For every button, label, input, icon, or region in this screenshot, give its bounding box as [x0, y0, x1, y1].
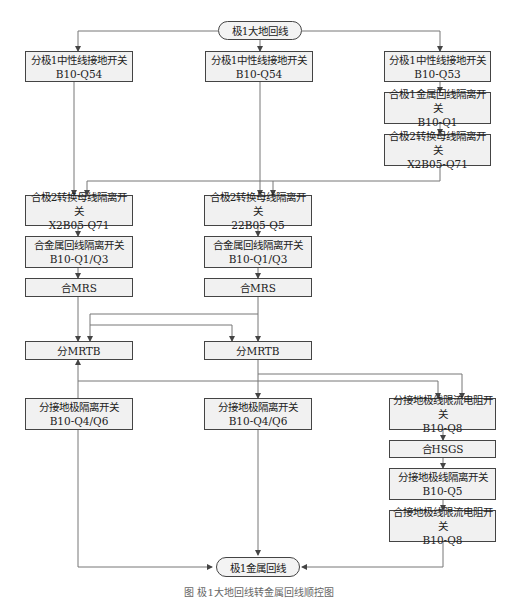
left-step-6: 分接地极隔离开关B10-Q4/Q6 — [25, 398, 133, 430]
step-label: 合极1金属回线隔离开关 — [385, 87, 490, 115]
right-bottom-step-3: 分接地极线隔离开关B10-Q5 — [389, 468, 496, 500]
step-label: 分接地极隔离开关 — [39, 400, 119, 414]
step-label: 合金属回线隔离开关 — [213, 238, 303, 252]
step-label: 合HSGS — [422, 442, 464, 456]
step-label: 分极1中性线接地开关 — [211, 53, 308, 67]
step-code: B10-Q4/Q6 — [229, 414, 288, 428]
step-code: B10-Q8 — [423, 533, 463, 547]
left-step-5: 分MRTB — [25, 341, 133, 360]
step-label: 合金属回线隔离开关 — [34, 238, 124, 252]
step-code: B10-Q4/Q6 — [50, 414, 109, 428]
right-top-step-3: 合极2转换母线隔离开关X2B05-Q71 — [384, 134, 491, 166]
middle-step-1: 分极1中性线接地开关B10-Q54 — [205, 51, 313, 82]
step-code: B10-Q54 — [56, 67, 103, 81]
right-bottom-step-2: 合HSGS — [389, 440, 496, 458]
right-top-step-2: 合极1金属回线隔离开关B10-Q1 — [384, 92, 491, 124]
step-label: 合极2转换母线隔离开关 — [205, 190, 311, 218]
right-top-step-1: 分极1中性线接地开关B10-Q53 — [384, 51, 491, 82]
middle-step-6: 分接地极隔离开关B10-Q4/Q6 — [204, 398, 312, 430]
step-code: 22B05-Q5 — [231, 218, 284, 232]
step-code: B10-Q54 — [236, 67, 283, 81]
step-label: 分MRTB — [57, 344, 100, 358]
step-label: 合接地极线限流电阻开关 — [390, 505, 495, 533]
left-step-1: 分极1中性线接地开关B10-Q54 — [25, 51, 133, 82]
step-label: 合MRS — [240, 281, 276, 295]
right-bottom-step-4: 合接地极线限流电阻开关B10-Q8 — [389, 510, 496, 542]
left-step-4: 合MRS — [25, 278, 133, 297]
step-code: X2B05-Q71 — [407, 157, 468, 171]
end-label: 极1金属回线 — [230, 560, 287, 575]
right-bottom-step-1: 分接地极线限流电阻开关B10-Q8 — [389, 398, 496, 430]
left-step-3: 合金属回线隔离开关B10-Q1/Q3 — [25, 236, 133, 268]
step-code: B10-Q53 — [414, 67, 461, 81]
start-label: 极1大地回线 — [232, 23, 289, 38]
middle-step-4: 合MRS — [204, 278, 312, 297]
step-label: 分极1中性线接地开关 — [389, 53, 486, 67]
step-code: B10-Q8 — [423, 421, 463, 435]
step-label: 分接地极隔离开关 — [218, 400, 298, 414]
step-code: B10-Q5 — [423, 484, 463, 498]
middle-step-3: 合金属回线隔离开关B10-Q1/Q3 — [204, 236, 312, 268]
step-code: B10-Q1 — [418, 115, 458, 129]
start-terminal: 极1大地回线 — [218, 21, 302, 40]
step-label: 合极2转换母线隔离开关 — [26, 190, 132, 218]
step-label: 合极2转换母线隔离开关 — [385, 129, 490, 157]
step-code: X2B05-Q71 — [49, 218, 110, 232]
middle-step-2: 合极2转换母线隔离开关22B05-Q5 — [204, 195, 312, 226]
step-label: 合MRS — [61, 281, 97, 295]
step-label: 分接地极线隔离开关 — [398, 470, 488, 484]
step-label: 分MRTB — [236, 344, 279, 358]
middle-step-5: 分MRTB — [204, 341, 312, 360]
step-code: B10-Q1/Q3 — [50, 252, 109, 266]
figure-caption: 图 极1大地回线转金属回线顺控图 — [0, 584, 518, 599]
step-code: B10-Q1/Q3 — [229, 252, 288, 266]
end-terminal: 极1金属回线 — [216, 557, 300, 577]
step-label: 分接地极线限流电阻开关 — [390, 393, 495, 421]
step-label: 分极1中性线接地开关 — [31, 53, 128, 67]
left-step-2: 合极2转换母线隔离开关X2B05-Q71 — [25, 195, 133, 226]
